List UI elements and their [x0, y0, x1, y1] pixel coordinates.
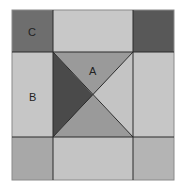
label-c: C [28, 26, 36, 38]
label-b: B [29, 91, 36, 103]
corner-top-right [133, 10, 174, 52]
edge-right [133, 52, 174, 137]
edge-top [53, 10, 133, 52]
label-a: A [89, 65, 97, 77]
corner-bottom-left [12, 137, 53, 180]
edge-bottom [53, 137, 133, 180]
quilt-block-diagram: C B A [0, 0, 183, 191]
corner-bottom-right [133, 137, 174, 180]
